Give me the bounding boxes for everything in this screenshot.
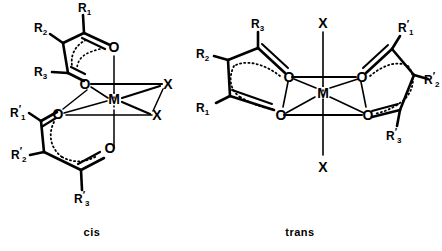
trans-oxygen-nw: O bbox=[284, 69, 295, 85]
structure-canvas: M O O O O X X R1 R2 R3 R′1 R′2 R′3 cis bbox=[0, 0, 442, 251]
cis-oxygen-ne: O bbox=[109, 39, 120, 55]
cis-oxygen-se: O bbox=[105, 140, 116, 156]
bond-r3p-c3p bbox=[81, 170, 82, 190]
bond-r1-c1 bbox=[83, 15, 84, 33]
chemical-structure-figure: M O O O O X X R1 R2 R3 R′1 R′2 R′3 cis bbox=[0, 0, 442, 251]
figure-background bbox=[0, 0, 442, 251]
cis-caption: cis bbox=[84, 226, 101, 238]
trans-caption: trans bbox=[285, 226, 314, 238]
bond-r3-c3 bbox=[52, 72, 68, 73]
cis-ligand-x-upper: X bbox=[163, 76, 173, 92]
cis-oxygen-nw: O bbox=[80, 76, 91, 92]
trans-oxygen-sw: O bbox=[276, 107, 287, 123]
trans-ligand-x-top: X bbox=[318, 15, 328, 31]
cis-ligand-x-lower: X bbox=[152, 107, 162, 123]
cis-oxygen-sw: O bbox=[53, 106, 64, 122]
trans-metal-label: M bbox=[317, 85, 329, 101]
cis-metal-label: M bbox=[108, 91, 120, 107]
trans-oxygen-se: O bbox=[363, 107, 374, 123]
trans-oxygen-ne: O bbox=[357, 69, 368, 85]
trans-ligand-x-bottom: X bbox=[318, 159, 328, 175]
